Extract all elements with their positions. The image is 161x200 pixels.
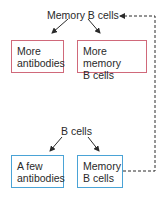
arrow-to-memory-b	[88, 137, 99, 151]
arrow-to-more-memory	[88, 19, 100, 33]
memory-b-cells-label: Memory B cells	[47, 9, 119, 21]
box-line1: More memory	[83, 45, 141, 69]
arrow-to-few-antibodies	[50, 137, 62, 151]
box-line1: Memory	[83, 160, 117, 172]
memory-b-cells-box: Memory B cells	[77, 155, 123, 188]
box-line2: B cells	[83, 172, 117, 184]
box-line1: A few	[17, 160, 58, 172]
box-line2: antibodies	[17, 172, 58, 184]
box-line2: B cells	[83, 69, 141, 81]
box-line2: antibodies	[17, 57, 58, 69]
more-antibodies-box: More antibodies	[11, 40, 64, 73]
b-cells-label: B cells	[61, 125, 92, 137]
a-few-antibodies-box: A few antibodies	[11, 155, 64, 188]
box-line1: More	[17, 45, 58, 57]
arrow-to-more-antibodies	[52, 19, 68, 33]
more-memory-b-cells-box: More memory B cells	[77, 40, 147, 73]
